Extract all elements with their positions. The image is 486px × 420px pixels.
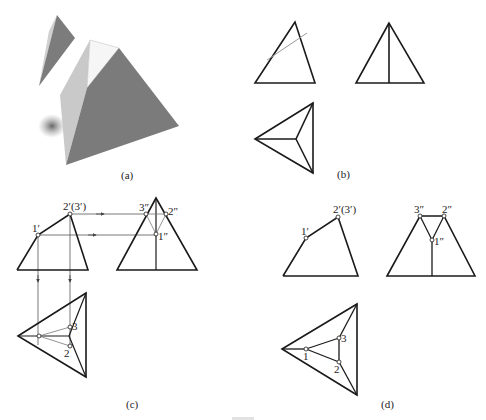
d-label-3-top: 3 [341, 332, 347, 344]
c-top-cut-13 [39, 327, 70, 336]
b-front-view [255, 22, 315, 83]
b-cutting-plane-line [267, 33, 307, 60]
c-label-3-side: 3″ [139, 201, 149, 213]
d-label-2-top: 2 [334, 363, 340, 375]
panel-c-construction: 1′ 2′(3′) 3″ 2″ 1″ 3 2 (c) [17, 198, 197, 411]
c-label-1-side: 1″ [158, 230, 168, 242]
b-top-view [255, 103, 313, 173]
pyramid-section-figure: (a) (b) [0, 0, 486, 420]
d-side-cut-left [420, 216, 432, 240]
c-label-2-front: 2′(3′) [63, 200, 86, 213]
caption-b: (b) [337, 168, 350, 181]
cast-shadow [38, 114, 66, 138]
d-top-cut-13 [306, 338, 339, 349]
c-label-2-top: 2 [64, 347, 70, 359]
c-point-2-front [68, 212, 72, 216]
d-top-cut-12 [306, 349, 339, 362]
panel-b-original-views [255, 22, 424, 173]
caption-d: (d) [381, 398, 394, 411]
d-front-view [283, 217, 358, 276]
c-top-view [18, 293, 86, 377]
d-label-2-side: 2″ [442, 203, 452, 215]
c-top-cut-12 [39, 336, 70, 346]
c-label-2-side: 2″ [168, 205, 178, 217]
caption-a: (a) [121, 169, 134, 182]
d-label-1-top: 1 [303, 350, 309, 362]
d-point-2-front [336, 215, 340, 219]
panel-a-3d-pyramid: (a) [38, 15, 179, 182]
c-label-1-front: 1′ [32, 222, 40, 234]
d-label-2-front: 2′(3′) [333, 203, 356, 216]
caption-c: (c) [126, 398, 139, 411]
c-front-view [17, 214, 88, 270]
d-label-3-side: 3″ [414, 203, 424, 215]
c-top-edge-3 [69, 336, 86, 377]
c-label-3-top: 3 [72, 320, 78, 332]
d-side-view [387, 216, 475, 276]
b-side-view [356, 23, 424, 83]
c-side-cut-left [146, 214, 156, 234]
panel-d-result: 1′ 2′(3′) 3″ 2″ 1″ 1 3 2 (d) [282, 203, 475, 411]
c-point-1-top [37, 334, 41, 338]
d-label-1-side: 1″ [434, 235, 444, 247]
wedge-dark-face [39, 15, 75, 86]
d-label-1-front: 1′ [301, 225, 309, 237]
